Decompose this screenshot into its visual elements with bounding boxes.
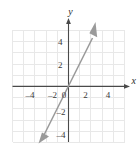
figure-container: –4 –2 2 4 0 4 2 –2 –4 x y [0, 0, 140, 146]
y-tick-label-2: 2 [58, 60, 63, 70]
y-tick-label--2: –2 [56, 107, 66, 117]
x-tick-label--2: –2 [47, 90, 57, 100]
coordinate-plane: –4 –2 2 4 0 4 2 –2 –4 x y [0, 0, 140, 146]
y-axis-label: y [67, 6, 73, 17]
y-tick-label--4: –4 [56, 130, 67, 140]
x-axis-label: x [131, 75, 137, 86]
origin-label: 0 [62, 90, 67, 100]
x-tick-label-2: 2 [83, 90, 88, 100]
x-tick-label--4: –4 [25, 90, 36, 100]
x-tick-label-4: 4 [106, 90, 111, 100]
y-tick-label-4: 4 [58, 37, 63, 47]
